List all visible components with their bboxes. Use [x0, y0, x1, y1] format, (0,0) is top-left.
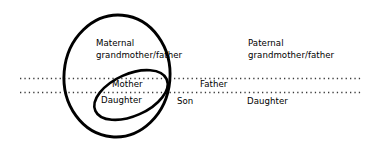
label-daughter-left: Daughter	[101, 95, 142, 106]
maternal-lineage-ellipse	[59, 11, 175, 142]
diagram-canvas	[0, 0, 377, 147]
label-maternal-line1: Maternal	[96, 38, 134, 48]
kinship-diagram: Maternal grandmother/father Paternal gra…	[0, 0, 377, 147]
label-father: Father	[200, 79, 227, 90]
label-paternal-line1: Paternal	[248, 38, 284, 48]
label-maternal-grandparents: Maternal grandmother/father	[96, 38, 182, 61]
label-paternal-line2: grandmother/father	[248, 50, 334, 60]
label-daughter-right: Daughter	[247, 96, 288, 107]
label-paternal-grandparents: Paternal grandmother/father	[248, 38, 334, 61]
label-mother: Mother	[112, 79, 143, 90]
label-maternal-line2: grandmother/father	[96, 50, 182, 60]
label-son: Son	[177, 96, 193, 107]
